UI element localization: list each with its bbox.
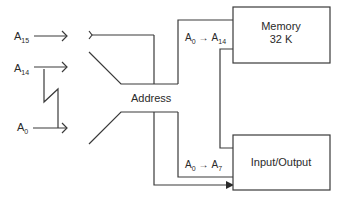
memory-block: Memory 32 K	[233, 7, 330, 63]
bus-entry-chevron-icon	[89, 31, 92, 39]
bus-break-icon	[44, 69, 58, 128]
address-label: Address	[131, 92, 172, 104]
bus-line-lower	[89, 112, 178, 144]
io-block: Input/Output	[233, 135, 330, 190]
connection-label-memory: A0→A14	[185, 32, 226, 45]
memory-io-link	[220, 49, 233, 148]
input-arrow-a15	[34, 31, 67, 41]
connection-label-io: A0→A7	[185, 159, 222, 172]
io-label: Input/Output	[251, 156, 312, 168]
input-label-a14: A14	[14, 62, 29, 76]
memory-address-line	[178, 20, 233, 84]
memory-size: 32 K	[270, 33, 293, 45]
bus-line-bottom	[154, 112, 229, 185]
input-arrow-a0	[33, 123, 67, 133]
memory-label: Memory	[261, 20, 301, 32]
input-label-a0: A0	[17, 121, 28, 135]
address-bus-diagram: A15 A14 A0 Address A0→A14 A0→A7 Memory 3…	[0, 0, 342, 205]
input-arrow-a14	[34, 62, 67, 72]
bus-line-upper	[89, 52, 178, 84]
input-label-a15: A15	[14, 30, 29, 44]
